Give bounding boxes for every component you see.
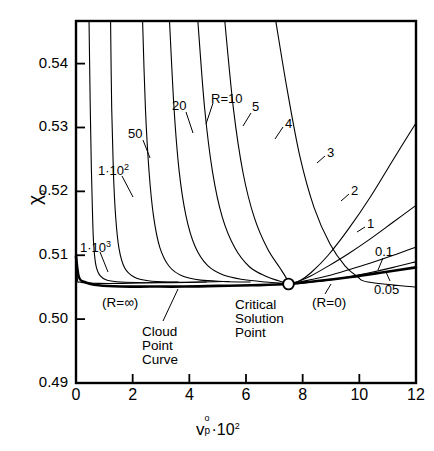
critical-solution-point-marker	[283, 279, 294, 290]
annotation-leader	[325, 284, 331, 294]
curve-label-leader	[317, 156, 325, 163]
y-axis-title: χo	[25, 190, 47, 205]
y-tick-label: 0.51	[8, 246, 68, 262]
x-tick-label: 0	[56, 387, 96, 404]
curve-5	[198, 21, 287, 284]
curve-label-leader	[143, 140, 150, 158]
x-tick-label: 10	[339, 387, 379, 404]
curve-label-leader	[186, 112, 193, 133]
y-tick-label: 0.50	[8, 310, 68, 326]
curve-label-text: 1·10	[80, 240, 106, 255]
y-axis-subscript: o	[37, 190, 47, 195]
curve-50	[111, 21, 229, 282]
curve-label: 0.1	[375, 245, 393, 259]
x-axis-subscript: p	[205, 426, 211, 437]
annotation-text: (R=0)	[312, 296, 346, 310]
curve-label: 2	[351, 184, 358, 198]
curves-group	[77, 21, 416, 287]
curve-2	[290, 123, 416, 284]
x-axis-title: vop·102	[196, 418, 240, 439]
curve-label-text: 1·10	[98, 163, 124, 178]
x-tick-label: 4	[169, 387, 209, 404]
curve-label-leader	[386, 272, 390, 281]
y-axis-symbol: χ	[24, 195, 45, 205]
curve-label-exponent: 2	[124, 162, 129, 172]
curve-label-leader	[275, 127, 283, 139]
x-axis-multiplier: ·10	[212, 421, 235, 438]
annotation-leader	[163, 289, 178, 321]
curve-label-leader	[122, 176, 133, 197]
curve-4	[225, 21, 289, 284]
annotation-text: Curve	[142, 353, 178, 367]
curve-label: 3	[327, 146, 334, 160]
annotation-text: Point	[235, 326, 266, 340]
curve-label-leader	[341, 194, 349, 201]
curve-label: R=10	[211, 92, 242, 106]
x-axis-superscript: o	[205, 414, 210, 423]
curve-3	[276, 21, 416, 287]
curve-label: 5	[252, 100, 259, 114]
curve-label: 50	[128, 127, 142, 141]
critical-point-circle	[283, 279, 294, 290]
curve-0.1	[290, 247, 416, 284]
curve-label-leader	[243, 113, 251, 126]
x-tick-label: 12	[396, 387, 434, 404]
x-axis-multiplier-exponent: 2	[235, 421, 240, 431]
figure-container: 0.540.530.520.510.500.49 024681012 1·103…	[0, 0, 434, 451]
x-tick-label: 2	[113, 387, 153, 404]
curve-R_10	[170, 21, 283, 284]
curve-label: 20	[172, 99, 186, 113]
x-axis-symbol: v	[196, 420, 205, 439]
curve-label: 0.05	[374, 283, 399, 297]
curve-label: 4	[285, 117, 292, 131]
y-tick-label: 0.54	[8, 55, 68, 71]
curve-20	[143, 21, 251, 282]
curve-label: 1·103	[80, 240, 111, 255]
curve-label-exponent: 3	[106, 239, 111, 249]
x-tick-label: 8	[283, 387, 323, 404]
curve-label-leader	[206, 103, 213, 124]
curve-label-leader	[357, 227, 365, 232]
label-leader-lines	[100, 103, 390, 321]
annotation-text: (R=∞)	[102, 296, 138, 310]
curve-label: 1·102	[98, 163, 129, 178]
curve-label: 1	[367, 217, 374, 231]
curve-1_10_	[77, 255, 178, 283]
y-tick-label: 0.53	[8, 118, 68, 134]
x-tick-label: 6	[226, 387, 266, 404]
curve-1	[290, 205, 416, 284]
